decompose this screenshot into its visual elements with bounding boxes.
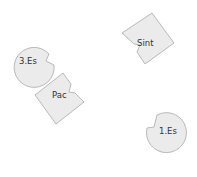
node-label-pac: Pac <box>52 90 67 100</box>
node-label-3es: 3.Es <box>19 56 37 66</box>
node-3es[interactable]: 3.Es <box>14 47 54 87</box>
notched-circle-shape <box>14 47 54 87</box>
node-label-1es: 1.Es <box>159 126 177 136</box>
node-sint[interactable]: Sint <box>122 13 174 64</box>
node-1es[interactable]: 1.Es <box>146 113 186 153</box>
diagram-canvas: Sint 3.Es Pac 1.Es <box>0 0 197 177</box>
node-label-sint: Sint <box>137 38 154 48</box>
